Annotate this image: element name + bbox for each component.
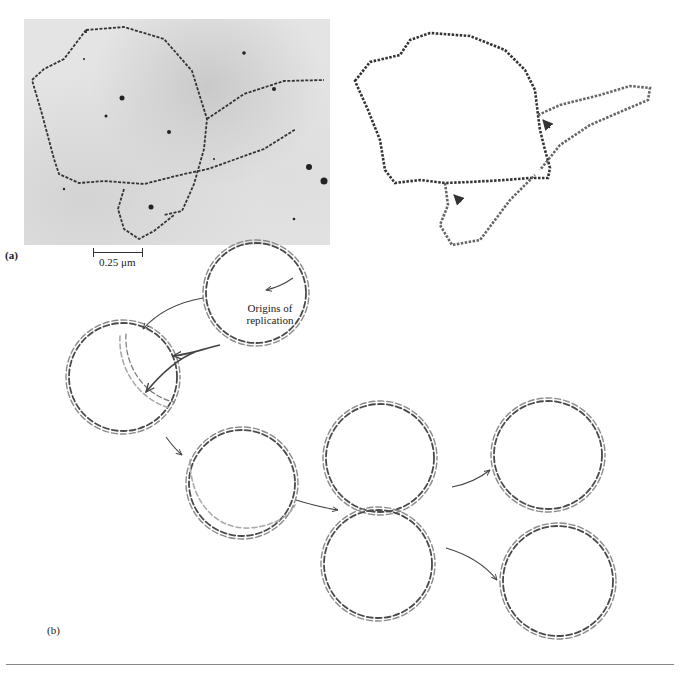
arrow-icon: [543, 120, 550, 128]
dna-tracing: [355, 33, 650, 245]
dna-circle-separated-top: [491, 398, 605, 512]
caption-divider: [6, 664, 674, 665]
arrow-icon: [146, 352, 195, 392]
annotation-line-2: replication: [240, 314, 300, 326]
arrow-icon: [454, 195, 461, 202]
dna-circle-replicating-early: [66, 320, 180, 434]
diagram-canvas: [0, 0, 680, 679]
arrow-icon: [143, 298, 203, 329]
arrow-icon: [166, 437, 182, 455]
dna-circle-parent: [203, 240, 309, 346]
dna-circle-replicating-late: [186, 427, 298, 539]
arrow-icon: [296, 500, 338, 510]
dna-circle-daughter-bottom: [321, 507, 435, 621]
arrow-icon: [173, 345, 220, 356]
panel-b-label: (b): [47, 624, 60, 636]
arrow-icon: [266, 278, 293, 290]
origins-of-replication-label: Origins of replication: [240, 302, 300, 326]
annotation-line-1: Origins of: [240, 302, 300, 314]
arrow-icon: [446, 548, 497, 580]
arrow-icon: [452, 470, 490, 487]
dna-circle-daughter-top: [323, 401, 437, 515]
dna-circle-separated-bottom: [500, 523, 616, 639]
